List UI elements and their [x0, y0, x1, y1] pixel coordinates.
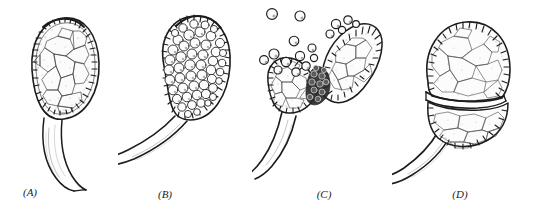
- panel-c-label: (C): [317, 188, 332, 201]
- panel-a-label: (A): [23, 186, 37, 199]
- panel-d-artwork: (D): [392, 0, 540, 219]
- stalk-a: [43, 118, 86, 191]
- panel-a-artwork: (A): [0, 0, 135, 219]
- lower-half-d: [428, 102, 508, 149]
- panel-d: (D): [392, 0, 540, 219]
- sporangium-body-a: [32, 18, 99, 119]
- panel-d-label: (D): [452, 188, 468, 201]
- panel-c-artwork: (C): [252, 0, 402, 219]
- figure-plate: (A): [0, 0, 540, 219]
- stalk-c: [252, 112, 296, 179]
- panel-b-label: (B): [158, 188, 172, 201]
- panel-b: (B): [118, 0, 263, 219]
- panel-c: (C): [252, 0, 402, 219]
- panel-a: (A): [0, 0, 135, 219]
- panel-b-artwork: (B): [118, 0, 263, 219]
- stalk-b: [118, 116, 187, 166]
- upper-half-d: [427, 22, 510, 102]
